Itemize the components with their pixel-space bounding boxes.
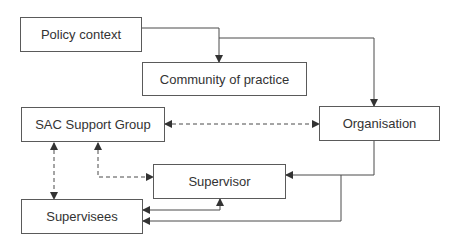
node-label: Organisation bbox=[343, 116, 417, 131]
node-label: Supervisees bbox=[46, 209, 118, 224]
edge-organisation-supervisor bbox=[286, 141, 374, 175]
node-community-of-practice: Community of practice bbox=[142, 62, 307, 96]
node-label: SAC Support Group bbox=[35, 117, 151, 132]
node-supervisor: Supervisor bbox=[153, 164, 286, 199]
node-label: Policy context bbox=[41, 27, 121, 42]
edge-sac-supervisor bbox=[98, 143, 153, 177]
edge-policy-community bbox=[142, 28, 219, 62]
node-supervisees: Supervisees bbox=[21, 199, 143, 234]
node-organisation: Organisation bbox=[319, 106, 440, 141]
edge-supervisor-supervisees bbox=[143, 199, 220, 210]
node-label: Community of practice bbox=[160, 72, 289, 87]
node-policy-context: Policy context bbox=[20, 17, 142, 52]
node-sac-support-group: SAC Support Group bbox=[21, 107, 165, 142]
node-label: Supervisor bbox=[188, 174, 250, 189]
